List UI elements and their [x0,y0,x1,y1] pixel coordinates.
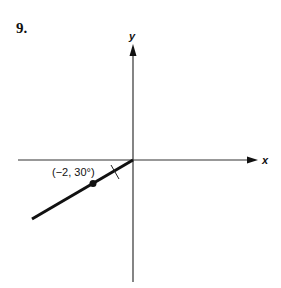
x-axis [18,157,258,164]
point-marker [90,180,97,187]
x-axis-arrow-icon [247,157,258,164]
x-axis-label: x [261,154,269,166]
polar-diagram: (−2, 30°) x y [0,0,281,288]
y-axis-label: y [128,30,136,42]
point-label: (−2, 30°) [52,166,95,178]
y-axis-arrow-icon [130,44,137,56]
